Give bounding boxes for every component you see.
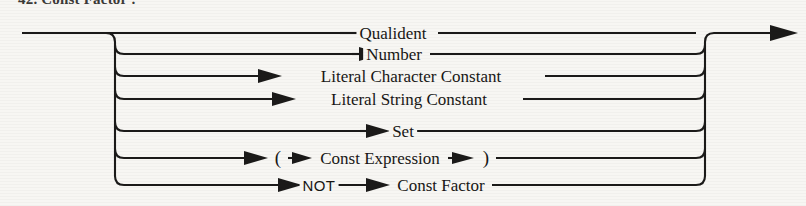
left-elbow-row-3 bbox=[115, 67, 258, 76]
exit-arrow-icon bbox=[770, 25, 798, 41]
row-7-arrow-icon-1 bbox=[278, 178, 302, 192]
node-qualident[interactable]: Qualident bbox=[356, 25, 429, 42]
right-spine bbox=[696, 33, 766, 185]
node-const-expression[interactable]: Const Expression bbox=[317, 150, 442, 167]
row-3-arrow-icon bbox=[258, 69, 282, 83]
node-open-paren[interactable]: ( bbox=[272, 148, 284, 167]
node-literal-string-constant[interactable]: Literal String Constant bbox=[328, 91, 490, 108]
row-5-arrow-icon bbox=[366, 124, 390, 138]
row-6-arrow-icon-2 bbox=[292, 152, 312, 164]
right-elbow-row-2 bbox=[696, 45, 705, 54]
left-elbow-row-4 bbox=[115, 90, 272, 99]
node-not-keyword[interactable]: NOT bbox=[300, 178, 339, 193]
right-elbow-row-4 bbox=[696, 90, 705, 99]
row-7-arrow-icon-2 bbox=[366, 178, 390, 192]
node-close-paren[interactable]: ) bbox=[480, 148, 492, 167]
right-elbow-row-5 bbox=[696, 122, 705, 131]
row-4-arrow-icon bbox=[272, 92, 296, 106]
row-6-arrow-icon-1 bbox=[244, 151, 268, 165]
node-const-factor[interactable]: Const Factor bbox=[394, 177, 487, 194]
row-6-arrow-icon-3 bbox=[452, 152, 474, 164]
left-elbow-row-6 bbox=[115, 149, 244, 158]
right-elbow-row-6 bbox=[696, 149, 705, 158]
node-set[interactable]: Set bbox=[389, 123, 417, 140]
node-literal-character-constant[interactable]: Literal Character Constant bbox=[318, 68, 504, 85]
left-elbow-row-5 bbox=[115, 122, 360, 131]
right-elbow-row-3 bbox=[696, 67, 705, 76]
syntax-diagram-page: 42. Const Factor : bbox=[0, 0, 806, 206]
left-elbow-row-2 bbox=[115, 45, 352, 54]
node-number[interactable]: Number bbox=[363, 46, 425, 63]
